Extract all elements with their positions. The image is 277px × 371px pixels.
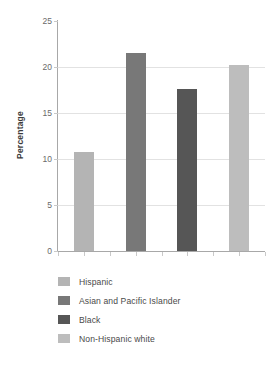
legend-item-label: Asian and Pacific Islander — [79, 296, 180, 306]
legend-swatch-icon — [58, 334, 70, 343]
legend-item: Non-Hispanic white — [58, 329, 268, 348]
y-tick-label: 10 — [43, 154, 52, 164]
legend-item: Asian and Pacific Islander — [58, 291, 268, 310]
legend-swatch-icon — [58, 277, 70, 286]
y-tick-label: 0 — [47, 246, 52, 256]
x-tick-mark — [84, 252, 85, 256]
legend-item: Hispanic — [58, 272, 268, 291]
bar — [177, 89, 197, 251]
bar-chart-figure: Percentage 0510152025 HispanicAsian and … — [0, 0, 277, 371]
y-axis-line — [57, 20, 58, 252]
bar — [74, 152, 94, 251]
legend-swatch-icon — [58, 315, 70, 324]
y-tick-mark — [54, 113, 58, 114]
legend-item: Black — [58, 310, 268, 329]
y-axis-title-text: Percentage — [15, 111, 25, 159]
y-tick-label: 25 — [43, 16, 52, 26]
plot-area: 0510152025 — [58, 21, 265, 251]
y-tick-label: 15 — [43, 108, 52, 118]
x-tick-mark — [110, 252, 111, 256]
bar — [126, 53, 146, 251]
y-tick-mark — [54, 159, 58, 160]
legend-item-label: Black — [79, 315, 101, 325]
y-tick-mark — [54, 67, 58, 68]
x-tick-mark — [239, 252, 240, 256]
y-tick-label: 20 — [43, 62, 52, 72]
y-tick-mark — [54, 205, 58, 206]
x-tick-mark — [265, 252, 266, 256]
bar — [229, 65, 249, 251]
chart-legend: HispanicAsian and Pacific IslanderBlackN… — [58, 272, 268, 348]
y-tick-label: 5 — [47, 200, 52, 210]
x-tick-mark — [58, 252, 59, 256]
x-tick-mark — [162, 252, 163, 256]
y-axis-title: Percentage — [13, 100, 27, 170]
legend-swatch-icon — [58, 296, 70, 305]
x-tick-mark — [213, 252, 214, 256]
x-tick-mark — [136, 252, 137, 256]
legend-item-label: Non-Hispanic white — [79, 334, 155, 344]
legend-item-label: Hispanic — [79, 277, 113, 287]
x-tick-mark — [187, 252, 188, 256]
y-tick-mark — [54, 21, 58, 22]
